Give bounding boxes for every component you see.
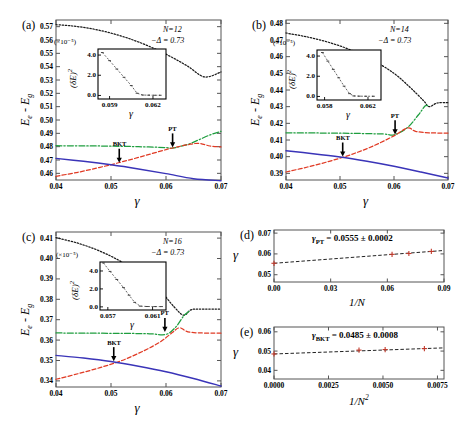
xtick-a: 0.04 (41, 182, 71, 191)
marker-label-pt-b: PT (391, 112, 399, 119)
annotation-system-size-a: N=12 (163, 25, 182, 34)
ytick-d: 0.05 (245, 270, 271, 279)
ytick-a: 0.56 (27, 36, 53, 45)
xtick-e: 0.0025 (311, 381, 345, 390)
ytick-e: 0.06 (245, 327, 271, 336)
datapoint-e (356, 348, 361, 353)
ytick-a: 0.52 (27, 89, 53, 98)
ytick-b: 0.48 (257, 19, 283, 28)
xtick-d: 0.09 (427, 284, 459, 293)
ytick-e: 0.05 (245, 347, 271, 356)
ytick-b: 0.42 (257, 119, 283, 128)
xtick-c: 0.04 (41, 389, 71, 398)
xtick-e: 0.0050 (366, 381, 400, 390)
inset-plot-b (0, 0, 459, 429)
inset-xtick-b: 0.062 (355, 102, 381, 110)
inset-xtick-c: 0.061 (140, 312, 166, 320)
inset-plot-a (0, 0, 459, 429)
panel-label-e: (e) (240, 325, 253, 340)
annotation-system-size-b: N=14 (390, 25, 409, 34)
datapoint-d (429, 249, 434, 254)
ytick-c: 0.36 (27, 336, 53, 345)
ytick-c: 0.41 (27, 234, 53, 243)
xtick-b: 0.07 (433, 182, 459, 191)
panel-d: (d)0.000.030.060.090.050.060.07γPT = 0.0… (0, 0, 459, 429)
inset-ytick-b: 2.0 (299, 72, 315, 80)
xtick-a: 0.07 (206, 182, 236, 191)
yaxis-title-c: Ee - Eg (18, 303, 34, 335)
curve-level-black-dotted (56, 238, 221, 316)
xaxis-title-e: 1/N2 (349, 393, 369, 407)
inset-ytick-c: 0.0 (82, 303, 98, 311)
marker-label-bkt-a: BKT (113, 140, 127, 147)
inset-ytick-c: 2.0 (82, 285, 98, 293)
marker-label-bkt-c: BKT (107, 339, 121, 346)
ytick-a: 0.47 (27, 156, 53, 165)
xtick-e: 0.0075 (420, 381, 454, 390)
inset-exponent-label-b: (×10⁻⁵) (273, 39, 295, 47)
curve-level-green-dashdot (56, 311, 189, 335)
marker-label-pt-a: PT (168, 125, 176, 132)
ytick-e: 0.04 (245, 366, 271, 375)
xaxis-title-a: γ (135, 193, 140, 209)
inset-ytick-a: 4.0 (80, 51, 96, 59)
panel-label-b: (b) (252, 18, 266, 33)
panel-label-c: (c) (22, 230, 35, 245)
xtick-b: 0.04 (271, 182, 301, 191)
ytick-b: 0.40 (257, 152, 283, 161)
annotation-delta-c: −Δ = 0.73 (151, 248, 184, 257)
xtick-e: 0.0000 (257, 381, 291, 390)
ytick-a: 0.55 (27, 49, 53, 58)
ytick-b: 0.46 (257, 52, 283, 61)
panel-c: (c)0.040.050.060.070.340.350.360.370.380… (0, 0, 459, 429)
inset-exponent-label-c: (×10⁻⁵) (56, 251, 78, 259)
inset-xtick-c: 0.057 (95, 312, 121, 320)
inset-xaxis-title-c: γ (130, 319, 134, 330)
ytick-b: 0.43 (257, 102, 283, 111)
inset-ytick-b: 4.0 (299, 52, 315, 60)
ytick-a: 0.54 (27, 62, 53, 71)
datapoint-d (389, 252, 394, 257)
inset-ytick-a: 2.0 (80, 71, 96, 79)
yaxis-title-e: γ (233, 344, 238, 360)
xtick-a: 0.06 (151, 182, 181, 191)
ytick-a: 0.51 (27, 102, 53, 111)
xtick-c: 0.06 (151, 389, 181, 398)
annotation-delta-a: −Δ = 0.73 (151, 36, 184, 45)
ytick-b: 0.39 (257, 169, 283, 178)
inset-ytick-a: 0.0 (80, 91, 96, 99)
inset-curve-b (322, 53, 373, 97)
inset-xtick-b: 0.058 (312, 102, 338, 110)
yaxis-title-b: Ee - Eg (248, 94, 264, 126)
datapoint-d (271, 261, 276, 266)
plot-area-a (0, 0, 459, 429)
xaxis-title-b: γ (363, 193, 368, 209)
panel-label-d: (d) (240, 228, 254, 243)
curve-level-black-dotted (286, 33, 448, 107)
curve-level-red-dashed (56, 143, 221, 176)
inset-plot-c (0, 0, 459, 429)
panel-b: (b)0.040.050.060.070.390.400.410.420.430… (0, 0, 459, 429)
ytick-b: 0.44 (257, 86, 283, 95)
inset-yaxis-title-c: (δE)2 (68, 281, 80, 300)
datapoint-e (422, 346, 427, 351)
curve-level-blue-solid (56, 355, 221, 386)
ytick-d: 0.07 (245, 229, 271, 238)
xtick-d: 0.06 (370, 284, 404, 293)
annotation-system-size-c: N=16 (163, 237, 182, 246)
inset-xaxis-title-a: γ (129, 108, 133, 119)
curve-level-blue-solid (286, 151, 448, 178)
xtick-d: 0.00 (257, 284, 291, 293)
curve-level-green-dashdot (286, 105, 429, 135)
xtick-b: 0.06 (379, 182, 409, 191)
ytick-c: 0.38 (27, 295, 53, 304)
ytick-b: 0.47 (257, 36, 283, 45)
xtick-d: 0.03 (314, 284, 348, 293)
inset-yaxis-title-b: (δE)2 (285, 70, 297, 89)
plot-area-b (0, 0, 459, 429)
xaxis-title-d: 1/N (349, 296, 365, 308)
ytick-c: 0.40 (27, 254, 53, 263)
xtick-a: 0.05 (96, 182, 126, 191)
ytick-a: 0.49 (27, 129, 53, 138)
ytick-a: 0.46 (27, 169, 53, 178)
